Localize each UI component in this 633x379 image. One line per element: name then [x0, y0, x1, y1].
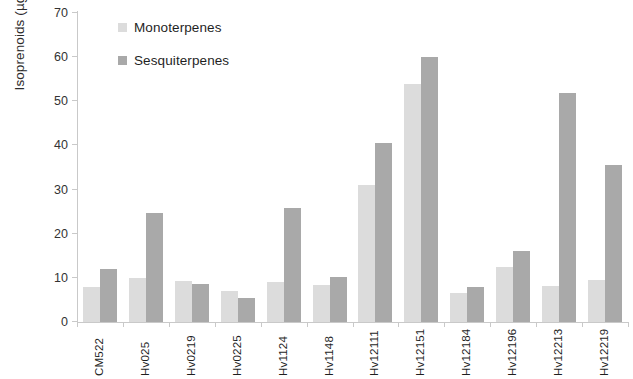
bar-monoterpenes	[588, 280, 605, 322]
bar-sesquiterpenes	[513, 251, 530, 322]
y-axis-tick: 0	[0, 315, 77, 329]
x-axis-label: Hv1124	[277, 330, 291, 376]
x-axis-label: Hv12219	[598, 330, 612, 376]
bar-group	[490, 13, 536, 322]
y-axis-tick-label: 40	[54, 138, 77, 152]
y-axis-tick: 50	[0, 94, 77, 108]
x-axis-tick-mark	[261, 322, 262, 327]
y-axis-tick-label: 30	[54, 183, 77, 197]
y-axis-tick-label: 0	[61, 315, 77, 329]
legend-item: Sesquiterpenes	[118, 53, 229, 68]
bar-monoterpenes	[267, 282, 284, 322]
x-axis-tick-mark	[123, 322, 124, 327]
bar-monoterpenes	[83, 287, 100, 322]
bar-sesquiterpenes	[559, 93, 576, 322]
legend-item: Monoterpenes	[118, 20, 229, 35]
bar-monoterpenes	[175, 281, 192, 322]
bar-sesquiterpenes	[238, 298, 255, 322]
x-axis-label: Hv12213	[552, 330, 566, 376]
x-axis-tick-mark	[398, 322, 399, 327]
y-axis-tick-label: 70	[54, 6, 77, 20]
x-axis-label: Hv025	[139, 330, 153, 376]
x-axis-tick-mark	[353, 322, 354, 327]
x-axis-label: Hv12196	[506, 330, 520, 376]
bar-group	[582, 13, 628, 322]
legend-swatch-icon	[118, 23, 127, 32]
x-axis-label: Hv12151	[414, 330, 428, 376]
x-axis-tick-mark	[582, 322, 583, 327]
bar-monoterpenes	[358, 185, 375, 322]
bar-sesquiterpenes	[192, 284, 209, 322]
bar-sesquiterpenes	[467, 287, 484, 322]
x-axis-tick-mark	[169, 322, 170, 327]
bar-group	[353, 13, 399, 322]
y-axis-tick-label: 60	[54, 50, 77, 64]
isoprenoids-bar-chart: Isoprenoids (µg/L) 010203040506070 CM522…	[0, 0, 633, 379]
bar-group	[307, 13, 353, 322]
bar-monoterpenes	[404, 84, 421, 322]
bar-group	[77, 13, 123, 322]
x-axis-label: Hv1148	[323, 330, 337, 376]
x-axis-label: Hv0219	[185, 330, 199, 376]
legend-swatch-icon	[118, 56, 127, 65]
bar-group	[398, 13, 444, 322]
bar-monoterpenes	[542, 286, 559, 322]
x-axis-tick-mark	[490, 322, 491, 327]
x-axis-label: CM522	[93, 330, 107, 376]
bar-monoterpenes	[313, 285, 330, 322]
bar-monoterpenes	[496, 267, 513, 322]
bar-sesquiterpenes	[375, 143, 392, 322]
legend-label: Monoterpenes	[134, 20, 222, 35]
chart-legend: MonoterpenesSesquiterpenes	[118, 20, 229, 68]
bar-sesquiterpenes	[421, 57, 438, 322]
y-axis-tick-label: 50	[54, 94, 77, 108]
bar-group	[444, 13, 490, 322]
y-axis-tick: 60	[0, 50, 77, 64]
x-axis-label: Hv12184	[460, 330, 474, 376]
x-axis-tick-mark	[215, 322, 216, 327]
bar-sesquiterpenes	[146, 213, 163, 322]
bar-monoterpenes	[450, 293, 467, 322]
y-axis-tick: 30	[0, 183, 77, 197]
bar-monoterpenes	[221, 291, 238, 322]
y-axis-tick: 40	[0, 138, 77, 152]
bar-sesquiterpenes	[284, 208, 301, 322]
y-axis-tick: 10	[0, 271, 77, 285]
y-axis-tick: 70	[0, 6, 77, 20]
x-axis-label: Hv0225	[231, 330, 245, 376]
bar-group	[536, 13, 582, 322]
x-axis-tick-mark	[536, 322, 537, 327]
x-axis-tick-mark	[628, 322, 629, 327]
bar-group	[261, 13, 307, 322]
y-axis-tick-label: 10	[54, 271, 77, 285]
legend-label: Sesquiterpenes	[134, 53, 229, 68]
bar-sesquiterpenes	[330, 277, 347, 322]
bar-sesquiterpenes	[100, 269, 117, 322]
bar-sesquiterpenes	[605, 165, 622, 322]
y-axis-tick-label: 20	[54, 227, 77, 241]
bar-monoterpenes	[129, 278, 146, 322]
y-axis-tick: 20	[0, 227, 77, 241]
x-axis-tick-mark	[77, 322, 78, 327]
x-axis-tick-mark	[307, 322, 308, 327]
x-axis-label: Hv12111	[368, 330, 382, 376]
x-axis-tick-mark	[444, 322, 445, 327]
